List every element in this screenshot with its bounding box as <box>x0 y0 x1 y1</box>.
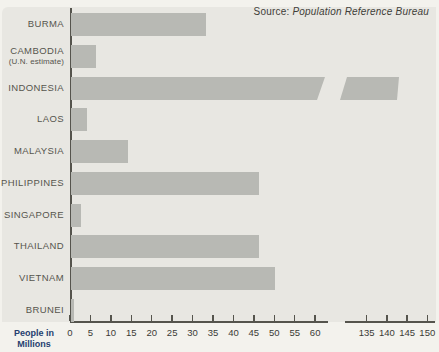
axis-tick-145 <box>406 315 407 321</box>
population-bar-chart: Source: Population Reference Bureau BURM… <box>0 0 439 352</box>
bar-thailand <box>71 235 259 258</box>
row-label-burma: BURMA <box>0 13 64 36</box>
row-label-malaysia-line1: MALAYSIA <box>14 146 64 157</box>
row-label-cambodia-line1: CAMBODIA <box>10 46 64 57</box>
axis-tick-label-150: 150 <box>414 327 439 338</box>
row-label-vietnam-line1: VIETNAM <box>19 273 64 284</box>
bar-burma <box>71 13 206 36</box>
axis-unit-label: People in Millions <box>4 328 64 351</box>
axis-tick-25 <box>171 315 172 321</box>
axis-tick-0 <box>69 315 70 321</box>
axis-tick-30 <box>192 315 193 321</box>
x-axis-primary-segment <box>70 321 328 323</box>
bar-philippines <box>71 172 259 195</box>
row-label-cambodia: CAMBODIA(U.N. estimate) <box>0 45 64 68</box>
source-prefix: Source: <box>254 6 290 17</box>
row-label-singapore: SINGAPORE <box>0 204 64 227</box>
bar-indonesia-segment-2 <box>340 77 399 100</box>
axis-tick-20 <box>151 315 152 321</box>
bar-laos <box>71 108 87 131</box>
axis-tick-45 <box>253 315 254 321</box>
axis-tick-140 <box>386 315 387 321</box>
axis-tick-150 <box>427 315 428 321</box>
row-label-cambodia-line2: (U.N. estimate) <box>9 57 64 66</box>
axis-tick-60 <box>314 315 315 321</box>
axis-unit-label-line1: People in <box>4 328 64 339</box>
bar-indonesia-segment-1 <box>71 77 325 100</box>
bar-malaysia <box>71 140 128 163</box>
bar-singapore <box>71 204 81 227</box>
axis-unit-label-line2: Millions <box>4 339 64 350</box>
row-label-thailand-line1: THAILAND <box>14 241 64 252</box>
row-label-laos: LAOS <box>0 108 64 131</box>
row-label-laos-line1: LAOS <box>37 114 64 125</box>
axis-tick-35 <box>212 315 213 321</box>
row-label-philippines: PHILIPPINES <box>0 172 64 195</box>
row-label-philippines-line1: PHILIPPINES <box>1 178 64 189</box>
axis-tick-135 <box>366 315 367 321</box>
row-label-vietnam: VIETNAM <box>0 267 64 290</box>
bar-cambodia <box>71 45 96 68</box>
row-label-singapore-line1: SINGAPORE <box>4 210 64 221</box>
axis-tick-label-60: 60 <box>302 327 328 338</box>
row-label-malaysia: MALAYSIA <box>0 140 64 163</box>
axis-tick-15 <box>131 315 132 321</box>
axis-tick-40 <box>233 315 234 321</box>
bar-brunei <box>71 299 74 322</box>
x-axis-secondary-segment <box>345 321 435 323</box>
axis-tick-50 <box>274 315 275 321</box>
source-name: Population Reference Bureau <box>292 6 429 17</box>
axis-tick-55 <box>294 315 295 321</box>
row-label-brunei: BRUNEI <box>0 299 64 322</box>
axis-tick-10 <box>110 315 111 321</box>
axis-tick-5 <box>90 315 91 321</box>
row-label-burma-line1: BURMA <box>28 19 64 30</box>
row-label-indonesia: INDONESIA <box>0 77 64 100</box>
row-label-thailand: THAILAND <box>0 235 64 258</box>
row-label-brunei-line1: BRUNEI <box>26 305 64 316</box>
row-label-indonesia-line1: INDONESIA <box>8 83 64 94</box>
bar-vietnam <box>71 267 275 290</box>
source-label: Source: Population Reference Bureau <box>254 6 429 17</box>
